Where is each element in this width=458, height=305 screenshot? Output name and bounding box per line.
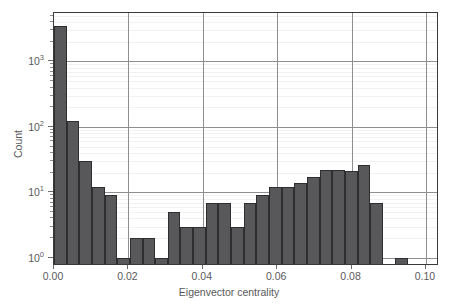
histogram-bar [79, 161, 92, 265]
gridline-minor [54, 76, 437, 77]
histogram-bar [320, 170, 333, 265]
x-tick-label: 0.04 [192, 270, 212, 282]
gridline-minor [54, 30, 437, 31]
x-tick-mark [53, 265, 54, 269]
histogram-bar [218, 203, 231, 266]
histogram-bar [307, 177, 320, 265]
histogram-bar [92, 187, 105, 265]
x-tick-label: 0.08 [340, 270, 360, 282]
histogram-bar [256, 195, 269, 265]
histogram-bar [67, 121, 80, 265]
gridline-major [54, 192, 437, 193]
gridline-minor [54, 137, 437, 138]
histogram-bar [117, 258, 130, 265]
histogram-bar [54, 26, 67, 265]
gridline-minor [54, 22, 437, 23]
gridline-minor [54, 42, 437, 43]
gridline-minor [54, 133, 437, 134]
histogram-figure: 100101102103 0.000.020.040.060.080.10 Ei… [0, 0, 458, 305]
gridline-minor [54, 68, 437, 69]
y-tick-label: 103 [14, 54, 44, 68]
histogram-bar [395, 258, 408, 265]
x-tick-mark [425, 265, 426, 269]
x-tick-mark [276, 265, 277, 269]
histogram-bar [332, 170, 345, 265]
gridline-minor [54, 88, 437, 89]
histogram-bar [180, 227, 193, 265]
x-tick-label: 0.00 [43, 270, 63, 282]
gridline-vertical [128, 13, 129, 264]
histogram-bar [370, 203, 383, 266]
histogram-bar [206, 203, 219, 266]
x-axis-title: Eigenvector centrality [0, 286, 458, 298]
gridline-minor [54, 173, 437, 174]
histogram-bar [168, 212, 181, 265]
histogram-bar [294, 183, 307, 265]
gridline-minor [54, 64, 437, 65]
x-tick-label: 0.06 [266, 270, 286, 282]
histogram-bar [269, 187, 282, 265]
gridline-minor [54, 16, 437, 17]
histogram-bar [231, 227, 244, 265]
y-tick-label: 100 [14, 250, 44, 264]
gridline-minor [54, 130, 437, 131]
histogram-bar [358, 165, 371, 265]
gridline-minor [54, 107, 437, 108]
gridline-minor [54, 81, 437, 82]
gridline-major [54, 61, 437, 62]
x-tick-label: 0.10 [415, 270, 435, 282]
y-axis-title: Count [12, 104, 24, 184]
histogram-bar [105, 195, 118, 265]
gridline-minor [54, 153, 437, 154]
plot-area [53, 12, 438, 265]
histogram-bar [345, 171, 358, 265]
histogram-bar [143, 238, 156, 265]
x-tick-label: 0.02 [117, 270, 137, 282]
gridline-major [54, 127, 437, 128]
x-tick-mark [127, 265, 128, 269]
x-tick-mark [202, 265, 203, 269]
gridline-minor [54, 161, 437, 162]
gridline-minor [54, 72, 437, 73]
gridline-minor [54, 147, 437, 148]
histogram-bar [244, 203, 257, 266]
gridline-minor [54, 141, 437, 142]
x-tick-mark [351, 265, 352, 269]
histogram-bar [282, 187, 295, 265]
histogram-bar [155, 258, 168, 265]
y-tick-label: 101 [14, 185, 44, 199]
histogram-bar [130, 238, 143, 265]
gridline-minor [54, 96, 437, 97]
gridline-vertical [426, 13, 427, 264]
histogram-bar [193, 227, 206, 265]
